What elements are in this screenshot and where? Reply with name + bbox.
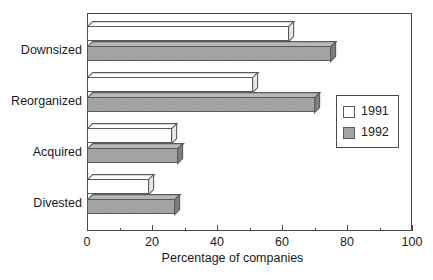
legend-entry-1992: 1992 [343, 125, 389, 140]
x-tick-80 [347, 225, 348, 231]
x-tick-0 [87, 225, 88, 231]
x-tick-label-80: 80 [327, 236, 367, 249]
x-tick-label-0: 0 [67, 236, 107, 249]
bar-side-face-acquired-1992 [177, 143, 184, 165]
x-axis-title: Percentage of companies [0, 251, 433, 265]
x-tick-100 [412, 225, 413, 231]
legend-label-1991: 1991 [361, 105, 389, 118]
bar-reorganized-1991 [87, 77, 253, 92]
x-tick-20 [152, 225, 153, 231]
bar-side-face-downsized-1992 [330, 41, 337, 63]
x-tick-30 [185, 228, 186, 232]
legend-label-1992: 1992 [361, 126, 389, 139]
x-tick-label-20: 20 [132, 236, 172, 249]
bar-divested-1991 [87, 179, 149, 194]
bar-reorganized-1992 [87, 97, 315, 112]
bar-side-face-reorganized-1992 [314, 92, 321, 114]
bar-acquired-1992 [87, 148, 178, 163]
bar-side-face-downsized-1991 [288, 21, 295, 43]
bar-chart: Downsized Reorganized Acquired Divested … [0, 0, 433, 280]
bar-side-face-divested-1992 [174, 194, 181, 216]
x-tick-50 [250, 228, 251, 232]
x-tick-10 [120, 228, 121, 232]
bar-side-face-reorganized-1991 [252, 72, 259, 94]
bar-downsized-1991 [87, 26, 289, 41]
bar-divested-1992 [87, 199, 175, 214]
bar-side-face-divested-1991 [148, 174, 155, 196]
category-label-divested: Divested [33, 197, 82, 210]
legend-entry-1991: 1991 [343, 104, 389, 119]
bar-downsized-1992 [87, 46, 331, 61]
x-axis-title-text: Percentage of companies [162, 251, 304, 265]
x-tick-label-60: 60 [262, 236, 302, 249]
x-tick-90 [380, 228, 381, 232]
x-tick-60 [282, 225, 283, 231]
x-tick-label-40: 40 [197, 236, 237, 249]
x-tick-40 [217, 225, 218, 231]
legend-swatch-1991-icon [343, 106, 355, 118]
category-label-acquired: Acquired [33, 146, 82, 159]
legend-swatch-1992-icon [343, 127, 355, 139]
x-tick-label-100: 100 [392, 236, 432, 249]
bar-acquired-1991 [87, 128, 172, 143]
category-label-reorganized: Reorganized [11, 95, 82, 108]
category-label-downsized: Downsized [21, 44, 82, 57]
bar-side-face-acquired-1991 [171, 123, 178, 145]
legend: 1991 1992 [336, 95, 399, 148]
x-tick-70 [315, 228, 316, 232]
